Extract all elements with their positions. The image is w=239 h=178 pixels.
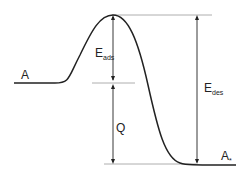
energy-curve [14,15,236,165]
e-ads-label: Eads [95,47,114,61]
final-state-label: A* [221,150,232,164]
initial-state-label: A [21,69,29,81]
q-label: Q [116,122,125,134]
e-des-label: Edes [204,82,223,96]
